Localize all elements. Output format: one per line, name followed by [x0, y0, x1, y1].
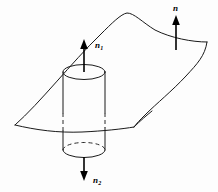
figure-container: n n1 n2 [0, 0, 218, 192]
label-normal-n: n [173, 4, 178, 13]
bottom-rim-hidden-arc [63, 143, 105, 150]
normal-vector-n [172, 15, 180, 50]
surface-right-edge [134, 42, 207, 127]
normal-vector-n1 [80, 39, 88, 72]
surface-front-edge [15, 125, 134, 132]
normal-vector-n-head [172, 15, 180, 25]
normal-vector-n2 [80, 157, 88, 181]
normal-vector-n2-head [80, 171, 88, 181]
label-normal-n1-subscript: 1 [100, 45, 103, 51]
surface-front-right-kick [134, 111, 152, 127]
label-normal-n2: n2 [93, 176, 101, 185]
normal-vector-n1-head [80, 39, 88, 49]
pillbox-lower-half [63, 113, 105, 158]
label-normal-n2-subscript: 2 [98, 180, 101, 186]
label-normal-n1: n1 [95, 41, 103, 50]
bottom-rim-front-arc [63, 150, 105, 158]
curved-surface [15, 13, 207, 132]
surface-back-edge [15, 13, 207, 125]
figure-canvas [0, 0, 218, 192]
